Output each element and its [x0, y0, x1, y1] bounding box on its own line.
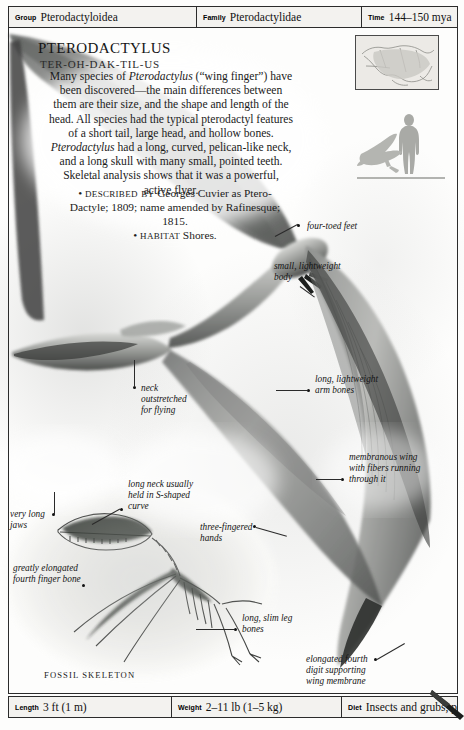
annotation-membranous-wing: membranous wing with fibers running thro… — [349, 452, 420, 484]
header-field-family: Family Pterodactylidae — [197, 7, 362, 27]
fact-habitat-text: Shores. — [183, 229, 217, 241]
diet-label: Diet — [348, 704, 362, 711]
leader-dot-neck-outstretched — [133, 386, 136, 389]
leader-dot-arm-bones — [307, 389, 310, 392]
length-label: Length — [15, 704, 39, 711]
pterodactylus-silhouette — [357, 134, 402, 173]
weight-label: Weight — [178, 704, 202, 711]
leader-dot-leg-bones — [234, 628, 237, 631]
footer-field-length: Length 3 ft (1 m) — [9, 697, 172, 717]
description-paragraph: Many species of Pterodactylus (“wing fin… — [48, 70, 294, 198]
fact-bullets: • Described by Georges Cuvier as Ptero-D… — [60, 186, 290, 242]
annotation-four-toed-feet: four-toed feet — [307, 221, 357, 232]
leader-dot-fourth-finger-bone — [82, 584, 85, 587]
fossil-skeleton-caption: FOSSIL SKELETON — [44, 670, 135, 680]
annotation-small-body: small, lightweight body — [274, 261, 341, 283]
annotation-three-fingered-hands: three-fingered hands — [200, 522, 253, 544]
footer-field-weight: Weight 2–11 lb (1–5 kg) — [172, 697, 342, 717]
annotation-neck-outstretched: neck outstretched for flying — [141, 383, 187, 415]
fact-habitat-term: Habitat — [140, 228, 180, 242]
fact-described-by-term: Described by — [85, 186, 154, 200]
size-comparison-thumbnail — [357, 110, 445, 182]
leader-dot-membranous-wing — [341, 478, 344, 481]
description-text: Many species of Pterodactylus (“wing fin… — [49, 70, 293, 197]
specimen-footer-bar: Length 3 ft (1 m) Weight 2–11 lb (1–5 kg… — [8, 696, 458, 718]
length-value: 3 ft (1 m) — [43, 701, 87, 713]
group-label: Group — [15, 14, 37, 21]
header-field-time: Time 144–150 mya — [362, 7, 457, 27]
annotation-fourth-finger-bone: greatly elongated fourth finger bone — [13, 563, 81, 585]
header-field-group: Group Pterodactyloidea — [9, 7, 197, 27]
fact-habitat: • Habitat Shores. — [60, 228, 290, 242]
time-value: 144–150 mya — [389, 11, 452, 23]
leader-line-arm-bones — [276, 390, 307, 391]
human-silhouette — [399, 114, 419, 174]
annotation-very-long-jaws: very long jaws — [10, 509, 45, 531]
fossil-distribution-map-thumbnail — [355, 35, 439, 90]
weight-value: 2–11 lb (1–5 kg) — [206, 701, 283, 713]
time-label: Time — [368, 14, 385, 21]
specimen-header-bar: Group Pterodactyloidea Family Pterodacty… — [8, 6, 458, 28]
leader-line-leg-bones — [196, 629, 234, 630]
annotation-s-shaped-neck: long neck usually held in S-shaped curve — [128, 479, 193, 511]
leader-line-very-long-jaws — [54, 492, 55, 514]
encyclopedia-page: Group Pterodactyloidea Family Pterodacty… — [0, 0, 464, 730]
family-label: Family — [203, 14, 226, 21]
leader-dot-s-shaped-neck — [120, 508, 123, 511]
page-title: Pterodactylus — [38, 34, 171, 59]
group-value: Pterodactyloidea — [41, 11, 118, 23]
footer-field-diet: Diet Insects and grubs, perhaps carrion — [342, 697, 457, 717]
leader-line-neck-outstretched — [134, 360, 135, 386]
pronunciation-guide: TER-OH-DAK-TIL-US — [40, 58, 160, 70]
leader-line-membranous-wing — [316, 479, 341, 480]
diet-value: Insects and grubs, perhaps carrion — [366, 701, 457, 713]
annotation-arm-bones: long, lightweight arm bones — [315, 374, 378, 396]
annotation-fourth-digit: elongated fourth digit supporting wing m… — [306, 654, 368, 686]
annotation-leg-bones: long, slim leg bones — [242, 613, 292, 635]
family-value: Pterodactylidae — [230, 11, 302, 23]
fact-described-by: • Described by Georges Cuvier as Ptero-D… — [60, 186, 290, 228]
